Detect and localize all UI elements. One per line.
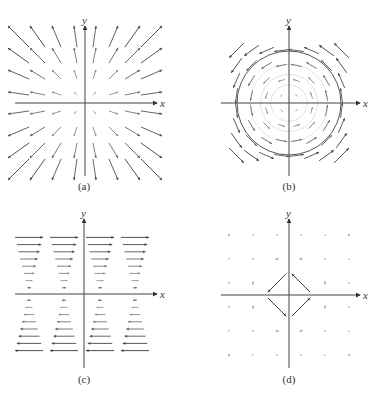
field-arrow	[334, 43, 349, 58]
arrow-head	[348, 331, 349, 332]
x-axis-label: x	[159, 288, 165, 300]
arrow-head	[253, 234, 254, 235]
arrow-head	[64, 287, 65, 289]
arrow-head	[22, 321, 24, 324]
panel-b: x y (b)	[221, 14, 368, 193]
field-arrow	[336, 133, 347, 148]
arrow-head	[110, 243, 113, 246]
x-axis-label: x	[362, 97, 368, 109]
field-arrow	[141, 26, 162, 47]
arrow-head	[146, 236, 149, 239]
arrow-head	[137, 280, 139, 282]
y-axis-label: y	[80, 207, 86, 219]
field-arrow	[52, 159, 61, 180]
field-arrow	[109, 26, 118, 47]
arrow-head	[106, 258, 109, 261]
arrow-head	[229, 258, 230, 259]
arrow-head	[126, 328, 129, 331]
field-arrow	[30, 26, 45, 47]
arrow-head	[98, 299, 99, 301]
field-arrow	[74, 26, 77, 47]
arrow-head	[111, 236, 114, 239]
field-arrow	[93, 26, 96, 47]
field-arrow	[30, 143, 45, 158]
arrow-head	[40, 236, 43, 239]
arrow-head	[105, 265, 107, 268]
field-arrow	[141, 159, 162, 180]
field-arrow	[8, 48, 29, 63]
arrow-head	[57, 321, 59, 324]
panel-caption: (c)	[78, 373, 91, 386]
field-arrow	[30, 159, 45, 180]
field-arrow	[8, 127, 29, 136]
field-arrow	[93, 159, 96, 180]
field-arrow	[8, 70, 29, 79]
arrow-head	[252, 354, 253, 355]
arrow-head	[102, 280, 104, 282]
coordinate-axes	[15, 219, 157, 368]
arrow-head	[55, 328, 58, 331]
field-arrow	[125, 48, 140, 63]
arrow-head	[75, 236, 78, 239]
arrow-head	[88, 342, 91, 345]
arrow-head	[138, 272, 140, 274]
field-arrow	[109, 159, 118, 180]
y-axis-label: y	[285, 207, 291, 219]
arrow-head	[97, 306, 99, 308]
field-arrow	[125, 143, 140, 158]
arrow-head	[72, 250, 75, 253]
field-arrow	[336, 58, 347, 73]
arrow-head	[61, 306, 63, 308]
field-arrow	[268, 274, 286, 292]
arrow-head	[140, 265, 142, 268]
arrow-head	[325, 235, 326, 236]
panel-c: x y (c)	[15, 207, 165, 386]
field-arrow	[319, 150, 334, 161]
arrow-head	[349, 259, 350, 260]
arrow-head	[17, 342, 20, 345]
arrow-head	[121, 349, 124, 352]
arrow-head	[32, 272, 34, 274]
arrow-head	[86, 349, 89, 352]
field-arrow	[292, 274, 310, 292]
field-arrow	[319, 45, 334, 56]
field-arrow	[141, 143, 162, 158]
field-arrow	[231, 133, 242, 148]
y-axis-label: y	[285, 14, 291, 26]
field-arrow	[74, 159, 77, 180]
field-arrow	[52, 26, 61, 47]
arrow-head	[20, 328, 23, 331]
arrow-dot	[228, 234, 230, 236]
arrow-head	[15, 349, 18, 352]
arrow-head	[74, 243, 77, 246]
arrow-head	[130, 313, 132, 315]
field-arrow	[268, 298, 286, 316]
arrow-head	[69, 265, 71, 268]
arrow-head	[135, 287, 136, 289]
arrow-head	[95, 313, 97, 315]
field-arrow	[8, 111, 29, 114]
arrow-head	[50, 349, 53, 352]
arrow-dot	[228, 354, 230, 356]
arrow-head	[125, 335, 128, 338]
arrow-head	[145, 243, 148, 246]
field-arrow	[334, 148, 349, 163]
arrow-head	[100, 287, 101, 289]
arrow-head	[128, 321, 130, 324]
arrow-head	[62, 299, 63, 301]
panel-caption: (d)	[283, 373, 296, 386]
arrow-head	[67, 272, 69, 274]
x-axis-label: x	[362, 289, 368, 301]
arrow-head	[228, 330, 229, 331]
arrow-head	[37, 250, 40, 253]
arrow-head	[54, 335, 57, 338]
arrow-head	[52, 342, 55, 345]
field-arrow	[229, 43, 244, 58]
arrow-head	[66, 280, 68, 282]
arrow-head	[93, 321, 95, 324]
field-arrow	[125, 159, 140, 180]
field-arrow	[141, 70, 162, 79]
vector-field-figure: x y (a) x y (b) x y (c) x y (d)	[0, 0, 381, 398]
arrow-head	[59, 313, 61, 315]
arrow-head	[24, 313, 26, 315]
